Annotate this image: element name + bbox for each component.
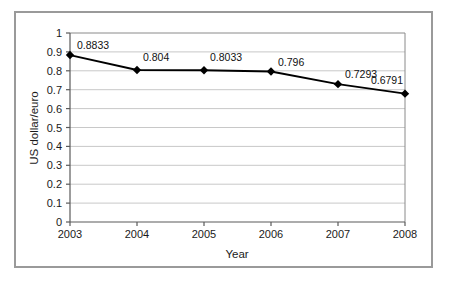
- y-axis-tick-label: 0.4: [47, 140, 62, 152]
- chart-figure: 00.10.20.30.40.50.60.70.80.91 2003200420…: [0, 0, 449, 288]
- x-axis-tick-label: 2006: [259, 228, 283, 240]
- x-axis-ticks: 200320042005200620072008: [58, 222, 417, 240]
- data-point-label: 0.804: [143, 51, 169, 63]
- y-axis-tick-label: 0.9: [47, 46, 62, 58]
- x-axis-tick-label: 2003: [58, 228, 82, 240]
- y-axis-ticks: 00.10.20.30.40.50.60.70.80.91: [47, 27, 70, 228]
- y-axis-tick-label: 0.8: [47, 65, 62, 77]
- x-axis-tick-label: 2007: [326, 228, 350, 240]
- y-axis-tick-label: 0.2: [47, 178, 62, 190]
- line-chart: 00.10.20.30.40.50.60.70.80.91 2003200420…: [0, 0, 449, 288]
- data-point-label: 0.8033: [210, 51, 242, 63]
- y-axis-tick-label: 1: [56, 27, 62, 39]
- y-axis-tick-label: 0.5: [47, 122, 62, 134]
- x-axis-tick-label: 2005: [192, 228, 216, 240]
- y-axis-tick-label: 0.7: [47, 84, 62, 96]
- data-point-label: 0.6791: [371, 74, 403, 86]
- y-axis-tick-label: 0.3: [47, 159, 62, 171]
- x-axis-tick-label: 2008: [393, 228, 417, 240]
- y-axis-tick-label: 0: [56, 216, 62, 228]
- data-point-label: 0.8833: [77, 39, 109, 51]
- x-axis-title: Year: [225, 248, 248, 260]
- y-axis-tick-label: 0.1: [47, 197, 62, 209]
- x-axis-tick-label: 2004: [125, 228, 149, 240]
- data-point-label: 0.796: [278, 56, 304, 68]
- y-axis-title: US dollar/euro: [28, 91, 40, 165]
- y-axis-tick-label: 0.6: [47, 103, 62, 115]
